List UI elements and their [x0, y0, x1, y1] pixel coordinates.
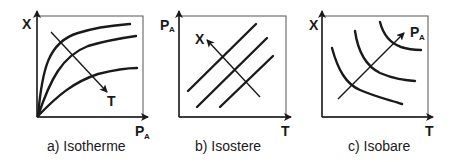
panel-caption: b) Isostere: [195, 138, 261, 154]
x-axis-subscript: A: [144, 132, 150, 141]
x-axis-label: T: [425, 123, 434, 139]
y-axis-subscript: A: [169, 25, 175, 34]
parameter-label: X: [195, 31, 205, 47]
isotherm-curve-3: [38, 68, 137, 116]
pressure-arrow: [338, 33, 404, 99]
isotherm-curve-2: [38, 36, 136, 116]
panel-caption: a) Isotherme: [47, 138, 126, 154]
y-axis-label: P: [160, 17, 169, 33]
parameter-label: T: [107, 93, 116, 109]
y-axis-label: X: [22, 16, 32, 32]
panel-isostere: P A T X b) Isostere: [160, 11, 291, 154]
parameter-subscript: A: [419, 33, 425, 42]
panel-isobare: X T P A c) Isobare: [309, 11, 434, 154]
panel-caption: c) Isobare: [348, 138, 410, 154]
adsorption-diagram: X P A T a) Isotherme P A T X b) Isostere…: [0, 0, 452, 162]
x-axis-label: P: [135, 123, 144, 139]
parameter-label: P: [410, 24, 419, 40]
x-axis-label: T: [281, 123, 290, 139]
y-axis-label: X: [309, 17, 319, 33]
panel-isotherme: X P A T a) Isotherme: [22, 11, 150, 154]
